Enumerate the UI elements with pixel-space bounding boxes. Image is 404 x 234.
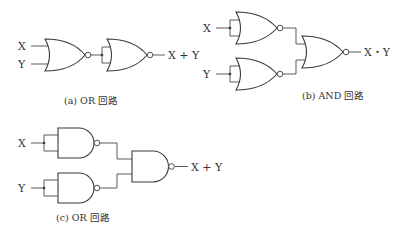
circuit-b: X Y X・Y (b) AND 回路 — [202, 12, 391, 101]
circuit-a-nor-gate-1 — [45, 39, 85, 71]
circuit-a-wire-tied-inputs — [102, 47, 111, 63]
circuit-c-output-label: X + Y — [191, 161, 223, 174]
circuit-a: X Y X + Y (a) OR 回路 — [17, 39, 200, 106]
circuit-c-wire-y-tied — [44, 180, 58, 196]
circuit-c-caption: (c) OR 回路 — [56, 212, 110, 223]
circuit-c-wire-bottom-to-final — [100, 174, 132, 188]
circuit-b-wire-y-tied — [230, 66, 240, 82]
circuit-b-nor-gate-bottom-bubble — [277, 71, 283, 77]
circuit-b-wire-x-tied — [230, 20, 240, 36]
logic-circuits-figure: X Y X + Y (a) OR 回路 X Y — [0, 0, 404, 234]
circuit-b-nor-gate-final-bubble — [343, 49, 349, 55]
circuit-a-output-label: X + Y — [168, 49, 200, 62]
circuit-b-output-label: X・Y — [364, 46, 391, 59]
circuit-b-nor-gate-top — [236, 12, 277, 44]
circuit-a-input-x-label: X — [18, 40, 26, 53]
circuit-b-input-x-label: X — [203, 22, 211, 35]
circuit-c-wire-top-to-final — [100, 143, 132, 159]
circuit-b-nor-gate-final — [302, 36, 343, 68]
circuit-a-nor-gate-2 — [107, 39, 147, 71]
circuit-c-nand-gate-final — [132, 151, 169, 182]
circuit-b-input-y-label: Y — [202, 68, 211, 81]
circuit-c-nand-gate-final-bubble — [169, 164, 175, 170]
circuit-c: X Y X + Y (c) OR 回路 — [17, 128, 223, 223]
circuit-c-nand-gate-bottom — [58, 173, 94, 203]
circuit-b-caption: (b) AND 回路 — [302, 90, 364, 101]
circuit-b-nor-gate-top-bubble — [277, 25, 283, 31]
circuit-a-input-y-label: Y — [17, 58, 26, 71]
circuit-c-wire-x-tied — [44, 135, 58, 151]
circuit-c-nand-gate-bottom-bubble — [94, 185, 100, 191]
circuit-c-input-y-label: Y — [17, 182, 26, 195]
circuit-a-nor-gate-2-bubble — [147, 52, 153, 58]
circuit-a-nor-gate-1-bubble — [85, 52, 91, 58]
circuit-c-input-x-label: X — [18, 137, 26, 150]
circuit-c-nand-gate-top-bubble — [94, 140, 100, 146]
circuit-c-nand-gate-top — [58, 128, 94, 158]
circuit-a-caption: (a) OR 回路 — [64, 95, 118, 106]
circuit-b-nor-gate-bottom — [236, 58, 277, 90]
